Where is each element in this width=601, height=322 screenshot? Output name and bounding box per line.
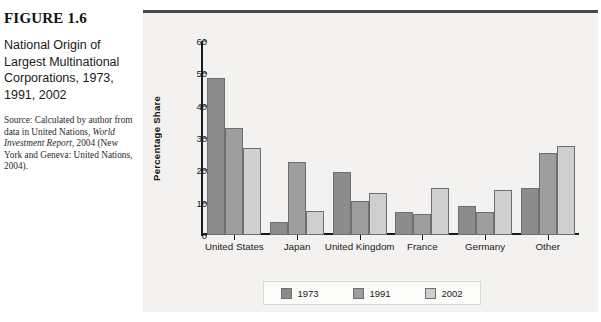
legend-item: 2002: [425, 288, 462, 299]
figure-title: National Origin of Largest Multinational…: [4, 37, 134, 103]
legend-item: 1991: [353, 288, 390, 299]
bar-1973: [270, 222, 288, 235]
bar-1973: [207, 78, 225, 235]
chart-legend: 197319912002: [263, 281, 481, 305]
figure-caption-column: FIGURE 1.6 National Origin of Largest Mu…: [0, 0, 140, 322]
y-tick-label: 20: [171, 165, 207, 176]
bar-1991: [476, 212, 494, 235]
bar-1973: [333, 172, 351, 235]
bar-groups-container: United StatesJapanUnited KingdomFranceGe…: [203, 41, 579, 235]
bar-2002: [369, 193, 387, 235]
bar-group: Germany: [454, 41, 517, 235]
x-tick-mark: [297, 235, 298, 240]
plot-area: 0102030405060 United StatesJapanUnited K…: [201, 41, 579, 235]
bar-group: United States: [203, 41, 266, 235]
source-text-part1: Source: Calculated by author: [4, 115, 112, 125]
legend-swatch-2002: [425, 288, 436, 299]
x-tick-mark: [234, 235, 235, 240]
bar-2002: [243, 148, 261, 235]
legend-swatch-1991: [353, 288, 364, 299]
x-tick-mark: [422, 235, 423, 240]
bar-set: [391, 41, 454, 235]
bar-1991: [413, 214, 431, 235]
figure-number: FIGURE 1.6: [4, 10, 134, 27]
bar-1991: [288, 162, 306, 235]
bar-2002: [494, 190, 512, 235]
legend-label: 1991: [369, 288, 390, 299]
bar-1973: [458, 206, 476, 235]
y-tick-label: 50: [171, 68, 207, 79]
y-tick-label: 10: [171, 197, 207, 208]
source-text-part3: , 2004: [72, 138, 95, 148]
legend-label: 1973: [297, 288, 318, 299]
bar-set: [266, 41, 329, 235]
bar-1991: [539, 153, 557, 235]
y-tick-label: 0: [171, 230, 207, 241]
bar-1973: [521, 188, 539, 235]
figure-source-note: Source: Calculated by author from data i…: [4, 115, 134, 173]
chart-plot-wrapper: Percentage Share 0102030405060 United St…: [143, 13, 598, 315]
bar-2002: [306, 211, 324, 235]
x-tick-mark: [485, 235, 486, 240]
bar-1973: [395, 212, 413, 235]
legend-item: 1973: [281, 288, 318, 299]
x-axis-label: Other: [504, 241, 591, 254]
bar-group: France: [391, 41, 454, 235]
x-tick-mark: [360, 235, 361, 240]
bar-set: [328, 41, 391, 235]
bar-group: Other: [516, 41, 579, 235]
bar-set: [516, 41, 579, 235]
bar-1991: [351, 201, 369, 235]
bar-1991: [225, 128, 243, 235]
y-tick-label: 30: [171, 133, 207, 144]
bar-2002: [431, 188, 449, 235]
y-tick-label: 40: [171, 100, 207, 111]
bar-set: [454, 41, 517, 235]
bar-group: United Kingdom: [328, 41, 391, 235]
bar-2002: [557, 146, 575, 235]
legend-label: 2002: [441, 288, 462, 299]
legend-swatch-1973: [281, 288, 292, 299]
y-tick-label: 60: [171, 36, 207, 47]
bar-set: [203, 41, 266, 235]
x-tick-mark: [548, 235, 549, 240]
y-axis-title: Percentage Share: [151, 73, 167, 203]
chart-panel: Percentage Share 0102030405060 United St…: [143, 10, 598, 312]
bar-group: Japan: [266, 41, 329, 235]
